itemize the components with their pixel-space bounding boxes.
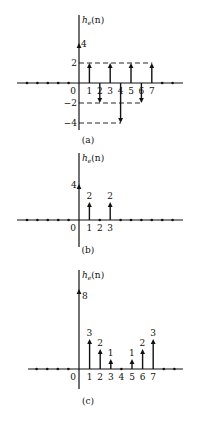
- arrow-head-icon: [87, 339, 92, 344]
- arrow-head-icon: [108, 63, 113, 68]
- zero-sample-dot: [163, 368, 166, 371]
- x-tick-label: 1: [87, 372, 93, 382]
- value-label: 3: [150, 328, 156, 338]
- x-tick-label: 3: [107, 86, 113, 96]
- x-tick-label: 0: [70, 372, 76, 382]
- zero-sample-dot: [161, 82, 164, 85]
- x-tick-label: 4: [119, 372, 125, 382]
- zero-sample-dot: [26, 82, 29, 85]
- x-tick-label: 1: [87, 223, 93, 233]
- arrow-head-icon: [77, 184, 82, 189]
- zero-sample-dot: [67, 368, 70, 371]
- stem-plot-c: he(n)832112301234567(c): [28, 270, 183, 406]
- panel-caption: (b): [82, 245, 95, 255]
- x-tick-label: 4: [118, 86, 124, 96]
- x-tick-label: 2: [97, 372, 103, 382]
- zero-sample-dot: [46, 368, 49, 371]
- zero-sample-dot: [67, 82, 70, 85]
- arrow-head-icon: [130, 359, 135, 364]
- panel-caption: (a): [82, 135, 94, 145]
- arrow-head-icon: [77, 289, 82, 294]
- value-label: 1: [129, 348, 135, 358]
- value-label: 3: [87, 328, 93, 338]
- zero-sample-dot: [99, 219, 102, 222]
- zero-sample-dot: [47, 82, 50, 85]
- x-tick-label: 2: [97, 223, 103, 233]
- x-tick-label: 0: [70, 86, 76, 96]
- arrow-head-icon: [87, 63, 92, 68]
- y-axis-label: he(n): [82, 153, 104, 164]
- zero-sample-dot: [36, 219, 39, 222]
- y-tick-label: −2: [64, 98, 77, 108]
- value-label: 2: [97, 338, 103, 348]
- arrow-head-icon: [97, 98, 102, 103]
- zero-sample-dot: [173, 368, 176, 371]
- value-label: 2: [107, 191, 113, 201]
- zero-sample-dot: [57, 368, 60, 371]
- value-label: 2: [86, 191, 92, 201]
- zero-sample-dot: [130, 219, 133, 222]
- arrow-head-icon: [108, 359, 113, 364]
- stem-plot-b: he(n)2240123(b): [17, 153, 183, 255]
- zero-sample-dot: [47, 219, 50, 222]
- zero-sample-dot: [171, 82, 174, 85]
- x-tick-label: 5: [129, 372, 135, 382]
- x-tick-label: 1: [87, 86, 93, 96]
- x-tick-label: 3: [108, 372, 114, 382]
- arrow-head-icon: [140, 349, 145, 354]
- value-label: 8: [82, 291, 88, 301]
- arrow-head-icon: [139, 98, 144, 103]
- y-axis-label: he(n): [82, 15, 104, 26]
- panel-caption: (c): [82, 396, 94, 406]
- zero-sample-dot: [57, 219, 60, 222]
- y-axis-label: he(n): [82, 270, 104, 281]
- zero-sample-dot: [67, 219, 70, 222]
- zero-sample-dot: [57, 82, 60, 85]
- value-label: 1: [108, 348, 114, 358]
- arrow-head-icon: [118, 118, 123, 123]
- value-label: 2: [140, 338, 146, 348]
- arrow-head-icon: [149, 63, 154, 68]
- x-tick-label: 2: [97, 86, 103, 96]
- arrow-head-icon: [151, 339, 156, 344]
- zero-sample-dot: [35, 368, 38, 371]
- zero-sample-dot: [161, 219, 164, 222]
- zero-sample-dot: [151, 219, 154, 222]
- stem-plots-figure: he(n)42−2−401234567(a)he(n)2240123(b)he(…: [0, 0, 200, 424]
- x-tick-label: 6: [139, 86, 145, 96]
- zero-sample-dot: [36, 82, 39, 85]
- x-tick-label: 6: [140, 372, 146, 382]
- y-tick-label: −4: [64, 118, 78, 128]
- x-tick-label: 7: [149, 86, 155, 96]
- x-tick-label: 0: [70, 223, 76, 233]
- y-tick-label: 4: [71, 180, 77, 190]
- zero-sample-dot: [140, 219, 143, 222]
- x-tick-label: 5: [128, 86, 134, 96]
- zero-sample-dot: [26, 219, 29, 222]
- arrow-head-icon: [98, 349, 103, 354]
- arrow-head-icon: [129, 63, 134, 68]
- y-tick-label: 2: [71, 58, 77, 68]
- y-tick-label: 4: [81, 39, 87, 49]
- arrow-head-icon: [108, 202, 113, 207]
- zero-sample-dot: [120, 368, 123, 371]
- zero-sample-dot: [119, 219, 122, 222]
- arrow-head-icon: [87, 202, 92, 207]
- x-tick-label: 7: [150, 372, 156, 382]
- stem-plot-a: he(n)42−2−401234567(a): [17, 15, 183, 145]
- zero-sample-dot: [171, 219, 174, 222]
- x-tick-label: 3: [107, 223, 113, 233]
